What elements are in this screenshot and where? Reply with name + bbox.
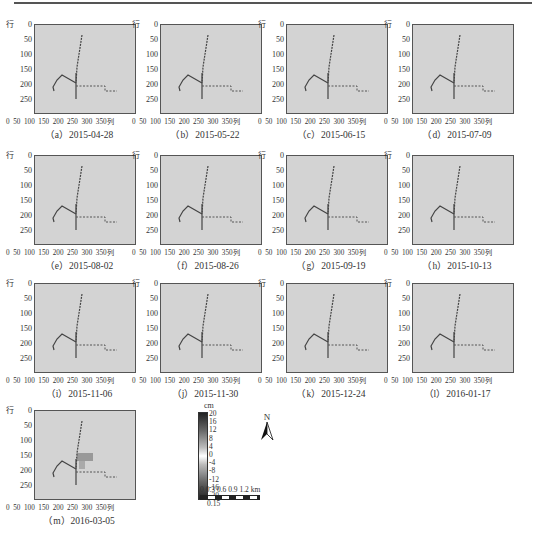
panel-caption: （e）2015-08-02 <box>16 258 142 272</box>
deformation-map <box>412 24 514 114</box>
y-tick: 150 <box>10 325 32 333</box>
north-arrow-icon <box>260 422 274 442</box>
y-tick: 50 <box>136 36 158 44</box>
y-tick: 50 <box>262 36 284 44</box>
panel-caption: （i）2015-11-06 <box>16 386 142 400</box>
y-tick: 50 <box>262 167 284 175</box>
y-tick: 50 <box>10 295 32 303</box>
panel-caption: （f）2015-08-26 <box>142 258 268 272</box>
y-tick: 150 <box>262 325 284 333</box>
y-tick: 200 <box>388 81 410 89</box>
panel-caption: （b）2015-05-22 <box>142 127 268 141</box>
subplot-panel: 行050100150200250 0 50 100 150 200 250 30… <box>6 151 132 273</box>
panel-caption: （d）2015-07-09 <box>394 127 520 141</box>
x-ticks: 0 50 100 150 200 250 300 350列 <box>258 247 398 257</box>
x-ticks: 0 50 100 150 200 250 300 350列 <box>132 116 272 126</box>
y-tick: 100 <box>388 310 410 318</box>
subplot-panel: 行050100150200250 0 50 100 150 200 250 30… <box>384 279 510 401</box>
y-tick: 50 <box>10 167 32 175</box>
y-tick: 100 <box>136 310 158 318</box>
deformation-map <box>286 24 388 114</box>
y-tick: 200 <box>388 340 410 348</box>
y-tick: 100 <box>262 182 284 190</box>
x-ticks: 0 50 100 150 200 250 300 350列 <box>132 247 272 257</box>
y-tick: 150 <box>388 325 410 333</box>
y-tick: 150 <box>262 66 284 74</box>
y-tick: 100 <box>10 437 32 445</box>
y-tick: 200 <box>10 467 32 475</box>
deformation-map <box>34 410 136 500</box>
deformation-map <box>34 283 136 373</box>
y-tick: 50 <box>10 422 32 430</box>
y-tick: 150 <box>10 452 32 460</box>
scale-bar-sub-label: 0.15 <box>207 499 220 508</box>
scale-bar-labels: 0 0.3 0.6 0.9 1.2 km <box>200 485 260 494</box>
y-tick: 150 <box>10 197 32 205</box>
y-tick: 200 <box>388 212 410 220</box>
y-tick: 0 <box>388 152 410 160</box>
y-tick: 200 <box>262 340 284 348</box>
subplot-panel: 行050100150200250 0 50 100 150 200 250 30… <box>258 151 384 273</box>
y-tick: 100 <box>10 310 32 318</box>
y-tick: 0 <box>388 280 410 288</box>
x-ticks: 0 50 100 150 200 250 300 350列 <box>6 116 146 126</box>
deformation-map <box>286 155 388 245</box>
y-tick: 250 <box>10 227 32 235</box>
panel-caption: （g）2015-09-19 <box>268 258 394 272</box>
y-tick: 0 <box>136 21 158 29</box>
panel-caption: （k）2015-12-24 <box>268 386 394 400</box>
subplot-panel: 行050100150200250 0 50 100 150 200 250 30… <box>132 279 258 401</box>
panel-caption: （c）2015-06-15 <box>268 127 394 141</box>
deformation-map <box>412 155 514 245</box>
x-ticks: 0 50 100 150 200 250 300 350列 <box>384 375 524 385</box>
y-tick: 250 <box>10 482 32 490</box>
y-tick: 250 <box>388 96 410 104</box>
north-arrow: N <box>260 412 274 444</box>
y-tick: 200 <box>10 81 32 89</box>
subplot-panel: 行050100150200250 0 50 100 150 200 250 30… <box>258 279 384 401</box>
y-tick: 0 <box>10 21 32 29</box>
y-tick: 250 <box>262 355 284 363</box>
x-ticks: 0 50 100 150 200 250 300 350列 <box>258 375 398 385</box>
y-tick: 200 <box>136 212 158 220</box>
y-tick: 0 <box>136 152 158 160</box>
y-tick: 100 <box>388 51 410 59</box>
y-tick: 250 <box>262 96 284 104</box>
deformation-map <box>160 283 262 373</box>
panel-caption: （m）2016-03-05 <box>16 513 142 527</box>
y-tick: 50 <box>136 167 158 175</box>
y-tick: 50 <box>388 167 410 175</box>
subplot-panel: 行050100150200250 0 50 100 150 200 250 30… <box>6 20 132 142</box>
y-tick: 200 <box>10 340 32 348</box>
y-tick: 100 <box>262 310 284 318</box>
y-tick: 150 <box>10 66 32 74</box>
subplot-panel: 行050100150200250 0 50 100 150 200 250 30… <box>258 20 384 142</box>
y-tick: 50 <box>388 36 410 44</box>
y-tick: 0 <box>10 407 32 415</box>
x-ticks: 0 50 100 150 200 250 300 350列 <box>6 502 146 512</box>
y-tick: 0 <box>388 21 410 29</box>
subplot-panel: 行050100150200250 0 50 100 150 200 250 30… <box>384 151 510 273</box>
y-tick: 200 <box>262 81 284 89</box>
y-tick: 50 <box>388 295 410 303</box>
y-tick: 250 <box>136 96 158 104</box>
deformation-map <box>34 155 136 245</box>
y-tick: 0 <box>262 21 284 29</box>
deformation-map <box>286 283 388 373</box>
north-label: N <box>260 412 274 422</box>
panel-caption: （a）2015-04-28 <box>16 127 142 141</box>
y-tick: 200 <box>10 212 32 220</box>
subplot-panel: 行050100150200250 0 50 100 150 200 250 30… <box>384 20 510 142</box>
y-tick: 150 <box>136 325 158 333</box>
x-ticks: 0 50 100 150 200 250 300 350列 <box>6 247 146 257</box>
panel-caption: （j）2015-11-30 <box>142 386 268 400</box>
y-tick: 250 <box>262 227 284 235</box>
deformation-map <box>412 283 514 373</box>
y-tick: 250 <box>388 227 410 235</box>
y-tick: 150 <box>136 197 158 205</box>
x-ticks: 0 50 100 150 200 250 300 350列 <box>132 375 272 385</box>
y-tick: 50 <box>136 295 158 303</box>
x-ticks: 0 50 100 150 200 250 300 350列 <box>258 116 398 126</box>
y-tick: 0 <box>10 152 32 160</box>
y-tick: 50 <box>10 36 32 44</box>
